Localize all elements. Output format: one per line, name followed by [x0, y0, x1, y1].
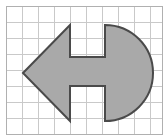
- graph-paper-figure: Shaded composite shape on graph paper A …: [0, 0, 168, 140]
- figure-container: Shaded composite shape on graph paper A …: [0, 0, 168, 140]
